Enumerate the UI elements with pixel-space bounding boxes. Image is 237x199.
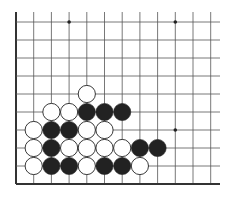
white-stone[interactable] [96,139,113,156]
white-stone[interactable] [43,103,60,120]
white-stone[interactable] [25,121,42,138]
black-stone[interactable] [114,103,131,120]
white-stone[interactable] [78,121,95,138]
black-stone[interactable] [43,157,60,174]
white-stone[interactable] [78,85,95,102]
white-stone[interactable] [25,139,42,156]
star-point-icon [174,20,178,24]
black-stone[interactable] [61,121,78,138]
star-point-icon [67,20,71,24]
black-stone[interactable] [131,139,148,156]
white-stone[interactable] [78,139,95,156]
black-stone[interactable] [149,139,166,156]
white-stone[interactable] [78,157,95,174]
black-stone[interactable] [61,157,78,174]
black-stone[interactable] [96,103,113,120]
go-board [0,0,237,199]
white-stone[interactable] [131,157,148,174]
white-stone[interactable] [114,139,131,156]
black-stone[interactable] [43,121,60,138]
white-stone[interactable] [96,121,113,138]
black-stone[interactable] [43,139,60,156]
white-stone[interactable] [25,157,42,174]
black-stone[interactable] [96,157,113,174]
white-stone[interactable] [61,139,78,156]
black-stone[interactable] [78,103,95,120]
black-stone[interactable] [114,157,131,174]
white-stone[interactable] [61,103,78,120]
star-point-icon [174,128,178,132]
